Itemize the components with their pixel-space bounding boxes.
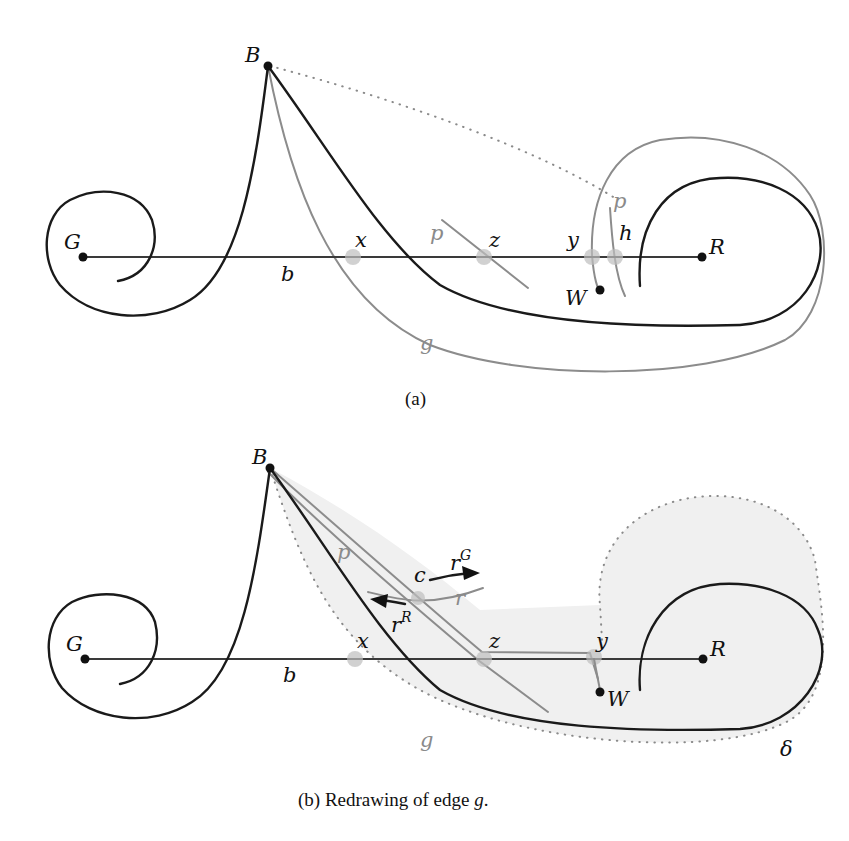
vertex-b: [264, 62, 273, 71]
label-vertex-g: G: [66, 632, 83, 656]
caption-panel-a: (a): [405, 388, 426, 410]
arrow-head-r-g-icon: [462, 566, 480, 580]
dotted-edge-b-p: [270, 66, 618, 200]
vertex-w: [596, 688, 605, 697]
crossing-halo-x: [347, 651, 363, 667]
crossing-halo-y: [584, 249, 600, 265]
label-crossing-y: y: [566, 228, 580, 252]
panel-a: B G R W x z y h b g p p (a): [47, 43, 824, 410]
label-vertex-g: G: [64, 230, 81, 254]
label-edge-p: p: [337, 540, 350, 564]
label-edge-p-1: p: [430, 221, 443, 245]
label-edge-p-2: p: [613, 189, 626, 213]
region-delta: [270, 468, 823, 743]
label-edge-g: g: [420, 331, 433, 355]
label-vertex-b: B: [251, 445, 267, 469]
label-edge-b: b: [281, 262, 294, 286]
crossing-halo-z: [476, 651, 492, 667]
caption-panel-b: (b) Redrawing of edge g.: [298, 789, 488, 811]
label-vertex-w: W: [607, 687, 631, 711]
label-vertex-w: W: [565, 286, 589, 310]
vertex-r: [699, 655, 708, 664]
label-edge-g: g: [420, 728, 433, 752]
edge-b-r-spiral: [268, 66, 821, 326]
label-crossing-h: h: [619, 221, 633, 245]
label-vertex-r: R: [708, 235, 725, 259]
label-crossing-x: x: [355, 228, 367, 252]
crossing-halo-h: [607, 249, 623, 265]
label-crossing-y: y: [595, 629, 609, 653]
panel-b: B G R W x z y c b g p r δ rG rR (b) Redr…: [49, 445, 823, 811]
label-vertex-r: R: [709, 637, 726, 661]
label-crossing-z: z: [488, 228, 501, 252]
vertex-w: [596, 286, 605, 295]
label-vertex-b: B: [244, 43, 260, 67]
crossing-halo-c: [411, 591, 425, 605]
label-crossing-c: c: [414, 563, 426, 587]
vertex-r: [698, 253, 707, 262]
label-region-delta: δ: [780, 737, 793, 761]
edge-g-spiral: [49, 468, 270, 718]
label-crossing-x: x: [357, 629, 369, 653]
figure-canvas: B G R W x z y h b g p p (a): [0, 0, 849, 841]
label-crossing-z: z: [488, 629, 501, 653]
edge-g-spiral: [47, 66, 268, 316]
label-edge-b: b: [283, 663, 296, 687]
